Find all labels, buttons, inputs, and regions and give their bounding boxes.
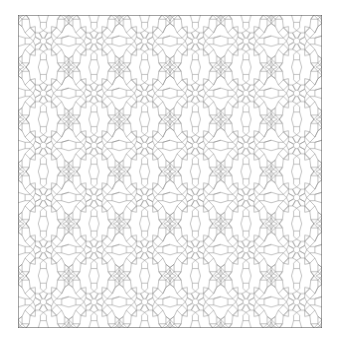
tiling-fill bbox=[18, 15, 322, 328]
rosette-tiling-svg bbox=[18, 15, 322, 328]
tiling-pattern bbox=[18, 15, 322, 328]
